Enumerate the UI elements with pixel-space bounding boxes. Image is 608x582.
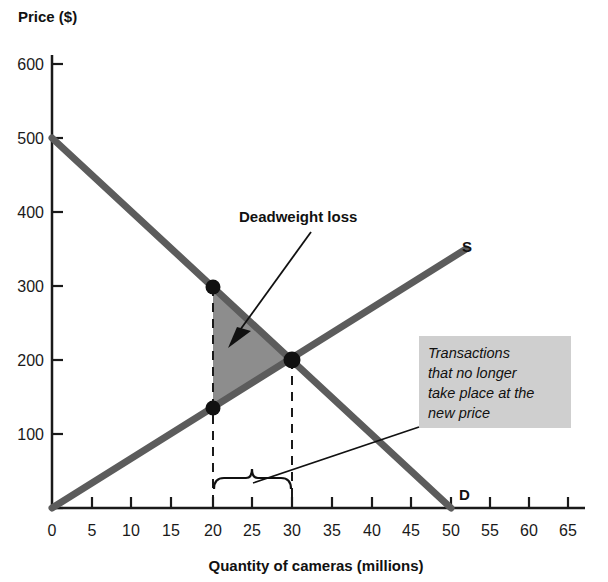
quantity-range-brace bbox=[214, 469, 291, 489]
y-tick-label-100: 100 bbox=[17, 426, 44, 443]
x-tick-label-45: 45 bbox=[402, 522, 420, 539]
x-tick-label-0: 0 bbox=[48, 522, 57, 539]
y-tick-label-400: 400 bbox=[17, 204, 44, 221]
supply-demand-chart: 600 500 400 300 200 100 0 5 10 15 20 25 bbox=[0, 0, 608, 582]
equilibrium-point-marker bbox=[284, 352, 301, 369]
y-tick-label-300: 300 bbox=[17, 278, 44, 295]
callout-line-3: take place at the bbox=[428, 385, 534, 401]
demand-curve bbox=[52, 138, 451, 508]
x-tick-label-50: 50 bbox=[442, 522, 460, 539]
x-tick-label-20: 20 bbox=[204, 522, 222, 539]
demand-point-q20-marker bbox=[206, 280, 221, 295]
x-tick-label-30: 30 bbox=[283, 522, 301, 539]
callout-line-4: new price bbox=[428, 405, 490, 421]
deadweight-loss-arrow-line bbox=[240, 232, 311, 330]
y-axis-ticks bbox=[52, 64, 63, 508]
y-tick-label-500: 500 bbox=[17, 130, 44, 147]
x-tick-label-35: 35 bbox=[323, 522, 341, 539]
x-axis-title: Quantity of cameras (millions) bbox=[208, 557, 423, 574]
supply-point-q20-marker bbox=[206, 401, 221, 416]
x-tick-label-40: 40 bbox=[363, 522, 381, 539]
supply-curve bbox=[52, 249, 466, 508]
x-tick-label-60: 60 bbox=[520, 522, 538, 539]
y-tick-label-200: 200 bbox=[17, 352, 44, 369]
demand-curve-label: D bbox=[459, 486, 470, 503]
y-axis-title: Price ($) bbox=[18, 8, 77, 25]
y-tick-label-600: 600 bbox=[17, 56, 44, 73]
chart-canvas: 600 500 400 300 200 100 0 5 10 15 20 25 bbox=[0, 0, 608, 582]
x-axis-ticks bbox=[92, 497, 568, 508]
deadweight-loss-label: Deadweight loss bbox=[239, 208, 357, 225]
supply-curve-label: S bbox=[462, 238, 472, 255]
callout-line-1: Transactions bbox=[428, 345, 510, 361]
x-tick-label-25: 25 bbox=[243, 522, 261, 539]
x-tick-label-55: 55 bbox=[481, 522, 499, 539]
x-tick-label-5: 5 bbox=[88, 522, 97, 539]
x-tick-label-10: 10 bbox=[122, 522, 140, 539]
callout-line-2: that no longer bbox=[428, 365, 518, 381]
x-tick-label-65: 65 bbox=[559, 522, 577, 539]
x-tick-label-15: 15 bbox=[162, 522, 180, 539]
